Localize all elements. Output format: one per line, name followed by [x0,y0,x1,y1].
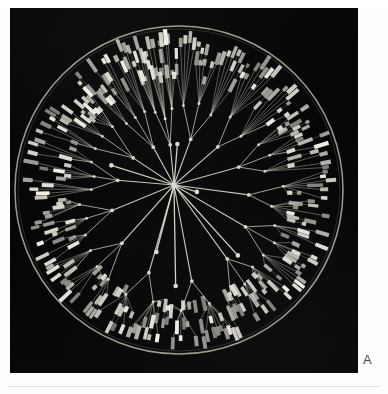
tree-node [208,302,211,305]
tree-edge [74,266,98,283]
tree-node [239,135,242,138]
leaf-tip [190,31,191,43]
leaf-tip [64,165,71,167]
leaf-tip [308,205,318,206]
leaf-tip [112,324,115,331]
tree-edge [174,185,176,286]
leaf-tip [261,56,270,69]
leaf-tip [285,292,292,298]
leaf-tip [167,317,168,325]
tree-node [116,178,120,182]
leaf-tip [165,29,166,45]
tree-edge [230,89,252,117]
radial-dendrogram [10,8,358,373]
tree-node [257,143,260,146]
tree-node [229,115,232,118]
tree-edge [94,177,118,181]
tree-edge [118,62,145,112]
tree-node [101,135,104,138]
tree-edge [174,185,227,259]
leaf-tip [106,321,112,332]
leaf-tip [145,327,148,339]
tree-edge [249,195,272,206]
leaf-tip [53,170,64,172]
leaf-tip [203,336,205,348]
leaf-tip [285,123,289,125]
tree-edge [245,227,263,255]
leaf-tip [196,51,198,65]
leaf-tip [35,139,45,143]
tree-node [251,266,254,269]
leaf-tip [152,39,154,48]
leaf-tip [130,312,132,319]
tree-edge [50,189,92,193]
leaf-tip [50,117,55,120]
leaf-tip [53,206,65,208]
tree-edge [245,225,274,226]
leaf-tip [151,315,154,329]
tree-node [282,185,285,188]
leaf-tip [262,305,267,313]
leaf-tip [210,316,212,323]
tree-node [262,254,265,257]
tree-node [164,117,167,120]
leaf-tip [37,242,44,245]
tree-edge [181,47,184,106]
leaf-tip [60,291,71,302]
tree-node [124,293,127,296]
leaf-tip [220,325,222,331]
leaf-tip [206,330,208,342]
leaf-tip [93,286,96,290]
leaf-tip [147,36,150,49]
tree-edge [259,135,291,145]
leaf-tip [323,171,328,172]
tree-node [154,111,157,114]
leaf-tip [65,226,76,230]
tree-edge [227,259,245,284]
leaf-tip [320,132,329,136]
leaf-tip [196,336,197,346]
tree-node [197,102,200,105]
leaf-tip [288,165,295,167]
leaf-tip [278,109,282,112]
tree-node [154,250,159,255]
tree-edge [91,162,117,180]
leaf-tip [293,207,298,208]
leaf-tip [253,273,257,278]
leaf-tip [301,106,308,111]
leaf-tip [296,138,303,141]
tree-edge [133,158,174,185]
tree-edge [102,136,133,158]
tree-edge [272,203,289,207]
tree-node [134,116,137,119]
tree-node [90,161,93,164]
leaf-tip [319,153,327,155]
leaf-tip [281,234,289,237]
leaf-tip [247,280,256,292]
tree-edge [126,124,153,148]
tree-edge [227,259,252,267]
tree-edge [245,227,274,243]
tree-edge [211,65,221,115]
tree-node [209,114,212,117]
tree-edge [275,225,298,233]
leaf-tip [62,105,73,113]
tree-node [175,142,180,147]
edge-group [33,43,326,338]
leaf-tip [64,175,71,176]
leaf-tip [202,48,203,54]
leaf-tip [292,243,299,246]
leaf-tip [277,276,281,280]
leaf-tip [170,304,171,318]
leaf-tip [36,130,43,133]
leaf-tip [40,168,48,169]
leaf-tip [204,59,205,65]
leaf-tip [213,327,216,338]
leaf-tip [120,324,124,333]
leaf-tip [134,36,138,50]
leaf-tip [64,260,74,267]
leaf-tip [194,37,195,49]
leaf-tip [102,58,105,63]
tree-node [109,163,114,168]
leaf-tip [322,167,329,168]
